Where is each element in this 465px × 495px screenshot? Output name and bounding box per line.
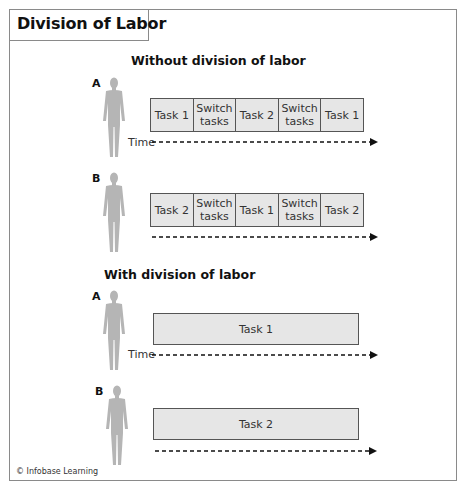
task-cell: Task 1 xyxy=(154,314,358,344)
time-arrow-icon xyxy=(155,446,377,456)
task-bar-without-a: Task 1 Switch tasks Task 2 Switch tasks … xyxy=(150,98,364,132)
person-icon xyxy=(101,77,127,159)
task-cell: Switch tasks xyxy=(279,99,322,131)
task-cell: Task 2 xyxy=(236,99,279,131)
time-label: Time xyxy=(128,348,155,361)
task-cell: Switch tasks xyxy=(279,194,322,226)
worker-label-a: A xyxy=(92,77,101,90)
time-label: Time xyxy=(128,136,155,149)
task-cell: Task 1 xyxy=(236,194,279,226)
task-bar-with-a: Task 1 xyxy=(153,313,359,345)
task-cell: Task 1 xyxy=(321,99,363,131)
task-cell: Switch tasks xyxy=(194,194,237,226)
worker-label-b: B xyxy=(92,172,100,185)
person-icon xyxy=(104,385,130,467)
title-box: Division of Labor xyxy=(9,9,149,41)
time-arrow-icon xyxy=(152,232,378,242)
time-arrow-icon xyxy=(152,350,378,360)
task-bar-with-b: Task 2 xyxy=(153,408,359,440)
worker-label-b: B xyxy=(95,385,103,398)
worker-label-a: A xyxy=(92,290,101,303)
diagram-title: Division of Labor xyxy=(17,14,166,33)
person-icon xyxy=(101,290,127,372)
person-icon xyxy=(101,172,127,254)
task-cell: Task 2 xyxy=(151,194,194,226)
task-cell: Task 2 xyxy=(154,409,358,439)
task-cell: Task 1 xyxy=(151,99,194,131)
section-heading-with: With division of labor xyxy=(104,267,255,282)
task-bar-without-b: Task 2 Switch tasks Task 1 Switch tasks … xyxy=(150,193,364,227)
task-cell: Switch tasks xyxy=(194,99,237,131)
section-heading-without: Without division of labor xyxy=(131,53,306,68)
task-cell: Task 2 xyxy=(321,194,363,226)
copyright-credit: © Infobase Learning xyxy=(16,467,98,476)
time-arrow-icon xyxy=(152,137,378,147)
